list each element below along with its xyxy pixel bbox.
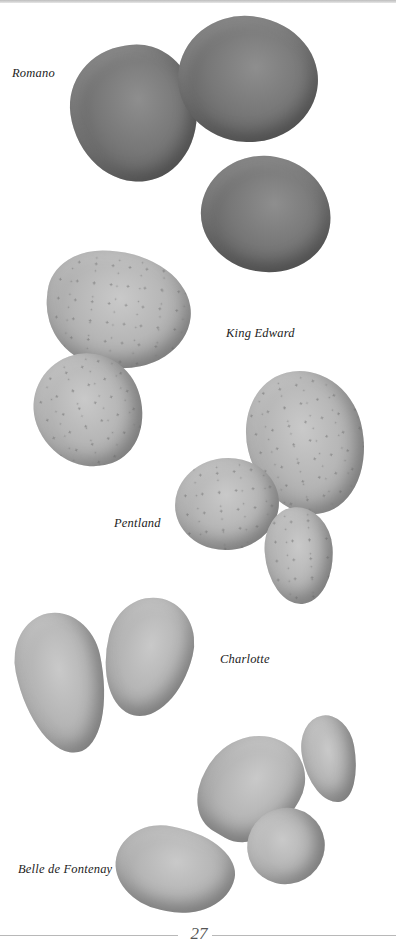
top-border	[0, 0, 396, 3]
caption-belle-de-fontenay: Belle de Fontenay	[18, 862, 112, 877]
potato-charlotte-1	[5, 605, 119, 762]
footer-rule-left	[0, 935, 178, 936]
potato-king-edward-1	[40, 245, 196, 376]
potato-romano-2	[174, 11, 322, 146]
potato-belle-2	[296, 711, 363, 807]
caption-pentland: Pentland	[114, 516, 161, 531]
caption-king-edward: King Edward	[226, 326, 295, 341]
caption-romano: Romano	[12, 66, 55, 81]
potato-charlotte-2	[92, 588, 204, 725]
caption-charlotte: Charlotte	[220, 652, 270, 667]
footer-rule-right	[212, 935, 396, 936]
potato-pentland-3	[262, 505, 337, 607]
potato-romano-3	[192, 146, 340, 283]
page-number: 27	[184, 924, 214, 944]
